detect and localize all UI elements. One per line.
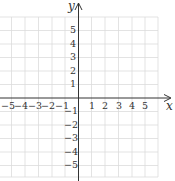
- x-axis-label: x: [166, 100, 173, 112]
- x-tick: −3: [28, 101, 42, 111]
- y-axis-label: y: [68, 0, 75, 12]
- y-tick: 2: [70, 66, 76, 76]
- y-tick: −2: [64, 120, 78, 130]
- y-tick: 5: [70, 25, 76, 35]
- y-tick: −3: [64, 133, 78, 143]
- x-tick: 1: [89, 101, 95, 111]
- x-tick: −2: [41, 101, 55, 111]
- y-tick: 4: [70, 39, 76, 49]
- x-tick: −5: [1, 101, 15, 111]
- y-tick: 3: [70, 52, 76, 62]
- x-tick: 2: [102, 101, 108, 111]
- x-tick: 4: [129, 101, 135, 111]
- x-tick: 5: [142, 101, 148, 111]
- coordinate-grid: [0, 0, 175, 181]
- y-tick: −4: [64, 147, 78, 157]
- x-tick: 3: [116, 101, 122, 111]
- x-tick: −4: [14, 101, 28, 111]
- y-tick: 1: [70, 79, 76, 89]
- x-tick: −1: [55, 101, 69, 111]
- y-tick: −5: [64, 160, 78, 170]
